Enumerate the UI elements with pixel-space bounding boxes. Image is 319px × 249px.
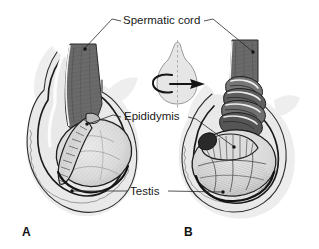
label-epididymis: Epididymis (124, 110, 180, 122)
leader-dot-epididymis-a (85, 122, 88, 125)
label-testis: Testis (130, 185, 160, 197)
panel-letter-a: A (22, 225, 31, 239)
leader-dot-epididymis-b (232, 145, 235, 148)
leader-dot-testis-a (70, 189, 73, 192)
label-spermatic-cord: Spermatic cord (123, 14, 200, 26)
testicular-torsion-figure: A (0, 0, 319, 249)
leader-dot-spermatic-a (83, 47, 86, 50)
leader-dot-testis-b (221, 190, 224, 193)
illustration-canvas: A (0, 0, 319, 249)
panel-letter-b: B (184, 225, 193, 239)
leader-dot-spermatic-b (251, 50, 254, 53)
